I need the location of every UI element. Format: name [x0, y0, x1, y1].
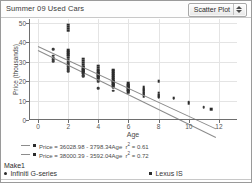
plot-area: 02468101201020304050: [29, 19, 237, 120]
x-axis-label: Age: [29, 131, 237, 138]
y-tick-label: 50: [19, 19, 26, 26]
legend-group-title: Make1: [1, 162, 251, 169]
plot-type-label: Scatter Plot: [194, 6, 230, 13]
chart-window: Summer 09 Used Cars Scatter Plot Price (…: [0, 0, 252, 183]
scatter-point: [187, 102, 190, 105]
legend-key-label: Infiniti G-series: [10, 170, 57, 177]
gridline-horizontal: [29, 23, 237, 24]
fit-equation-list: Price = 36028.98 - 3798.34Age r2 = 0.61P…: [1, 141, 251, 159]
x-tick-label: 10: [185, 123, 192, 130]
y-axis-line: [29, 19, 30, 120]
fit-equation-label: Price = 38000.39 - 3592.04Age r2 = 0.72: [39, 151, 149, 159]
gridline-vertical: [38, 19, 39, 120]
x-tick-label: 2: [66, 123, 70, 130]
gridline-horizontal: [29, 81, 237, 82]
x-tick-label: 8: [157, 123, 161, 130]
gridline-vertical: [159, 19, 160, 120]
scatter-point: [52, 48, 55, 51]
gridline-vertical: [128, 19, 129, 120]
legend-divider: [1, 179, 251, 180]
scatter-point: [112, 90, 115, 93]
fit-equation-label: Price = 36028.98 - 3798.34Age r2 = 0.61: [39, 142, 149, 150]
y-tick-label: 10: [19, 97, 26, 104]
scatter-point: [157, 80, 160, 83]
fit-equation-row: Price = 36028.98 - 3798.34Age r2 = 0.61: [1, 141, 251, 150]
y-tick-mark: [26, 81, 29, 82]
y-tick-label: 30: [19, 58, 26, 65]
scatter-point: [82, 75, 85, 78]
scatter-point: [67, 70, 70, 73]
y-tick-mark: [26, 62, 29, 63]
scatter-point: [203, 106, 206, 109]
fit-equation-row: Price = 38000.39 - 3592.04Age r2 = 0.72: [1, 150, 251, 159]
fit-line-swatch: [21, 145, 30, 146]
fit-marker-icon: [33, 144, 36, 147]
scatter-point: [97, 87, 100, 90]
stepper-icon[interactable]: [233, 4, 244, 15]
y-axis-label: Price (thousands): [11, 19, 21, 120]
fit-line-swatch: [21, 154, 30, 155]
chart-header: Summer 09 Used Cars Scatter Plot: [1, 1, 251, 18]
scatter-point: [127, 92, 130, 95]
gridline-horizontal: [29, 42, 237, 43]
scatter-point: [67, 29, 70, 32]
scatter-point: [210, 108, 213, 111]
circle-marker-icon: [4, 172, 7, 175]
scatter-point: [172, 96, 175, 99]
x-tick-label: 0: [36, 123, 40, 130]
scatter-point: [112, 84, 115, 87]
y-tick-label: 0: [22, 117, 26, 124]
plot-canvas: [29, 19, 237, 120]
plot-type-select[interactable]: Scatter Plot: [188, 3, 247, 17]
square-marker-icon: [149, 172, 152, 175]
y-tick-mark: [26, 42, 29, 43]
legend-keys: Infiniti G-series Lexus IS: [1, 170, 251, 177]
fit-marker-icon: [33, 153, 36, 156]
x-axis-line: [29, 119, 237, 120]
scatter-point: [82, 71, 85, 74]
scatter-point: [97, 76, 100, 79]
y-tick-label: 20: [19, 78, 26, 85]
legend-key-lexus[interactable]: Lexus IS: [149, 170, 183, 177]
page-title: Summer 09 Used Cars: [6, 4, 84, 13]
y-tick-mark: [26, 101, 29, 102]
y-tick-label: 40: [19, 39, 26, 46]
gridline-horizontal: [29, 101, 237, 102]
y-tick-mark: [26, 120, 29, 121]
scatter-point: [52, 60, 55, 63]
scatter-point: [157, 95, 160, 98]
gridline-vertical: [219, 19, 220, 120]
y-tick-mark: [26, 23, 29, 24]
legend-key-label: Lexus IS: [155, 170, 182, 177]
x-tick-label: 4: [97, 123, 101, 130]
x-tick-label: 6: [127, 123, 131, 130]
legend-key-infiniti[interactable]: Infiniti G-series: [1, 170, 57, 177]
gridline-vertical: [189, 19, 190, 120]
x-tick-label: 12: [215, 123, 222, 130]
legend: Price = 36028.98 - 3798.34Age r2 = 0.61P…: [1, 141, 251, 177]
